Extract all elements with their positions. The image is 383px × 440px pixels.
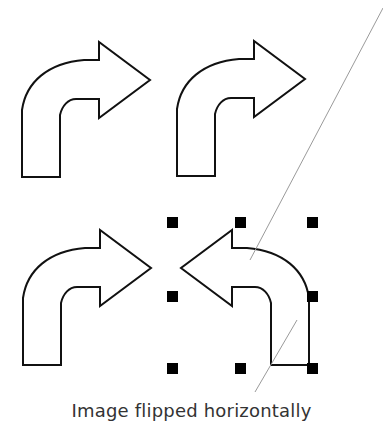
diagram-canvas: [0, 0, 383, 440]
bent-arrow-top-right: [177, 41, 305, 176]
resize-handle-bottom-right[interactable]: [307, 363, 318, 374]
resize-handle-top-left[interactable]: [167, 217, 178, 228]
resize-handle-top-right[interactable]: [307, 217, 318, 228]
resize-handle-top-center[interactable]: [235, 217, 246, 228]
bent-arrow-flipped[interactable]: [181, 230, 309, 365]
resize-handle-bottom-left[interactable]: [167, 363, 178, 374]
resize-handle-middle-left[interactable]: [167, 291, 178, 302]
resize-handle-middle-right[interactable]: [307, 291, 318, 302]
bent-arrow-top-left: [22, 42, 150, 177]
bent-arrow-bottom-left: [23, 230, 151, 365]
resize-handle-bottom-center[interactable]: [235, 363, 246, 374]
figure-caption: Image flipped horizontally: [0, 400, 383, 421]
